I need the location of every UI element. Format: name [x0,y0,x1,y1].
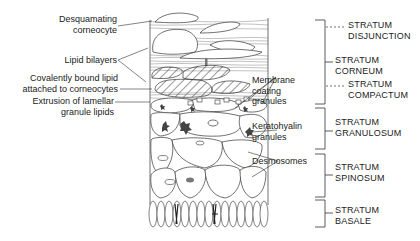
label-line: STRATUM [335,205,379,216]
label-line: granules [252,96,295,107]
label-line: corneocyte [20,25,117,36]
label-line: DISJUNCTION [348,31,411,42]
stratum-compactum-label: STRATUM COMPACTUM [348,79,408,100]
stratum-spinosum-label: STRATUM SPINOSUM [335,162,385,183]
label-lipid-bilayers: Lipid bilayers [20,55,117,66]
granule-oval [208,120,218,126]
epidermis-diagram: Desquamating corneocyte Lipid bilayers C… [0,0,420,241]
label-line: CORNEUM [335,66,383,77]
stratum-disjunction-label: STRATUM DISJUNCTION [348,20,411,41]
label-line: granule lipids [0,107,114,118]
stratum-corneum-label: STRATUM CORNEUM [335,55,383,76]
label-desmosomes: Desmosomes [252,156,307,167]
label-line: Desquamating [20,14,117,25]
label-line: Extrusion of lamellar [0,96,114,107]
corneocytes-upper [153,13,262,59]
label-extrusion-lamellar: Extrusion of lamellar granule lipids [0,96,114,117]
label-line: Lipid bilayers [20,55,117,66]
label-keratohyalin-granules: Keratohyalin granules [252,121,302,142]
stratum-granulosum-label: STRATUM GRANULOSUM [335,117,402,138]
label-line: BASALE [335,216,379,227]
label-line: attached to corneocytes [0,84,118,95]
label-line: Covalently bound lipid [0,73,118,84]
label-line: STRATUM [335,55,383,66]
desmosome-dark [186,178,194,183]
label-covalently-bound-lipid: Covalently bound lipid attached to corne… [0,73,118,94]
label-line: Membrane [252,75,295,86]
label-line: COMPACTUM [348,90,408,101]
label-line: STRATUM [335,117,402,128]
spinous-cells [151,137,266,198]
label-line: Keratohyalin [252,121,302,132]
stratum-basale-label: STRATUM BASALE [335,205,379,226]
basal-cells [149,201,268,227]
label-line: STRATUM [348,79,408,90]
strata-brackets [315,20,333,227]
desmosome-marker [205,58,208,66]
label-desquamating-corneocyte: Desquamating corneocyte [20,14,117,35]
hatched-corneocytes [152,65,250,97]
label-line: STRATUM [348,20,411,31]
label-line: SPINOSUM [335,173,385,184]
label-line: granules [252,132,302,143]
label-line: Desmosomes [252,156,307,167]
label-line: GRANULOSUM [335,128,402,139]
label-membrane-coating-granules: Membrane coating granules [252,75,295,107]
label-line: coating [252,86,295,97]
label-line: STRATUM [335,162,385,173]
